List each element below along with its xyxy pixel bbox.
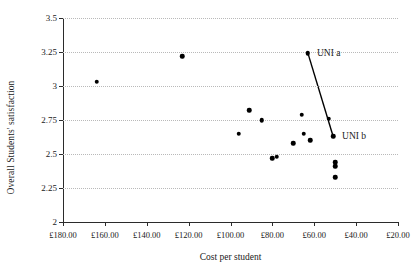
data-point xyxy=(237,131,242,136)
x-axis-tick-label: £140.00 xyxy=(133,230,161,240)
data-point xyxy=(327,116,332,121)
x-axis-tick-label: £120.00 xyxy=(175,230,203,240)
x-axis-tick-label: £40.00 xyxy=(344,230,367,240)
y-axis-tick-label: 2.5 xyxy=(46,149,57,159)
y-axis-tick-label: 3.25 xyxy=(41,47,57,57)
x-axis-tick-label: £160.00 xyxy=(91,230,119,240)
x-axis-tick-label: £20.00 xyxy=(386,230,409,240)
y-axis-tick xyxy=(59,52,63,53)
x-axis-tick xyxy=(189,222,190,226)
gridline-horizontal xyxy=(63,120,398,121)
x-axis-tick xyxy=(314,222,315,226)
y-axis-tick-label: 2 xyxy=(53,217,58,227)
data-point xyxy=(333,175,338,180)
data-point xyxy=(302,131,307,136)
gridline-horizontal xyxy=(63,18,398,19)
annotation-label: UNI b xyxy=(342,131,366,141)
scatter-chart: Overall Students' satisfaction 22.252.52… xyxy=(0,0,419,275)
y-axis-tick-labels: 22.252.52.7533.253.5 xyxy=(0,18,57,222)
x-axis-tick xyxy=(398,222,399,226)
y-axis-tick xyxy=(59,18,63,19)
x-axis-tick-labels: £180.00£160.00£140.00£120.00£100.00£80.0… xyxy=(63,230,398,244)
y-axis-tick-label: 2.75 xyxy=(41,115,57,125)
annotation-label: UNI a xyxy=(317,48,340,58)
data-point xyxy=(274,154,279,159)
data-point xyxy=(260,118,265,123)
gridline-horizontal xyxy=(63,52,398,53)
x-axis-tick xyxy=(272,222,273,226)
y-axis-tick-label: 3.5 xyxy=(46,13,57,23)
x-axis-tick xyxy=(63,222,64,226)
x-axis-tick-label: £60.00 xyxy=(303,230,326,240)
data-point xyxy=(299,112,304,117)
x-axis-tick xyxy=(231,222,232,226)
data-point xyxy=(247,108,252,113)
x-axis-tick-label: £80.00 xyxy=(261,230,284,240)
x-axis-tick-label: £100.00 xyxy=(217,230,245,240)
y-axis-tick xyxy=(59,154,63,155)
plot-area: UNI aUNI b xyxy=(63,18,398,222)
gridline-horizontal xyxy=(63,188,398,189)
x-axis-tick xyxy=(105,222,106,226)
y-axis-tick xyxy=(59,120,63,121)
data-point xyxy=(291,141,296,146)
y-axis-tick-label: 3 xyxy=(53,81,58,91)
data-point xyxy=(94,80,99,85)
y-axis-tick xyxy=(59,86,63,87)
data-point xyxy=(308,138,313,143)
x-axis-title: Cost per student xyxy=(63,252,398,262)
x-axis-tick-label: £180.00 xyxy=(49,230,77,240)
gridline-horizontal xyxy=(63,154,398,155)
gridline-horizontal xyxy=(63,86,398,87)
x-axis-tick xyxy=(147,222,148,226)
data-point xyxy=(180,54,185,59)
y-axis-tick xyxy=(59,188,63,189)
data-point xyxy=(331,134,336,139)
data-point xyxy=(333,164,338,169)
data-point xyxy=(306,51,311,56)
x-axis-tick xyxy=(356,222,357,226)
y-axis-tick-label: 2.25 xyxy=(41,183,57,193)
